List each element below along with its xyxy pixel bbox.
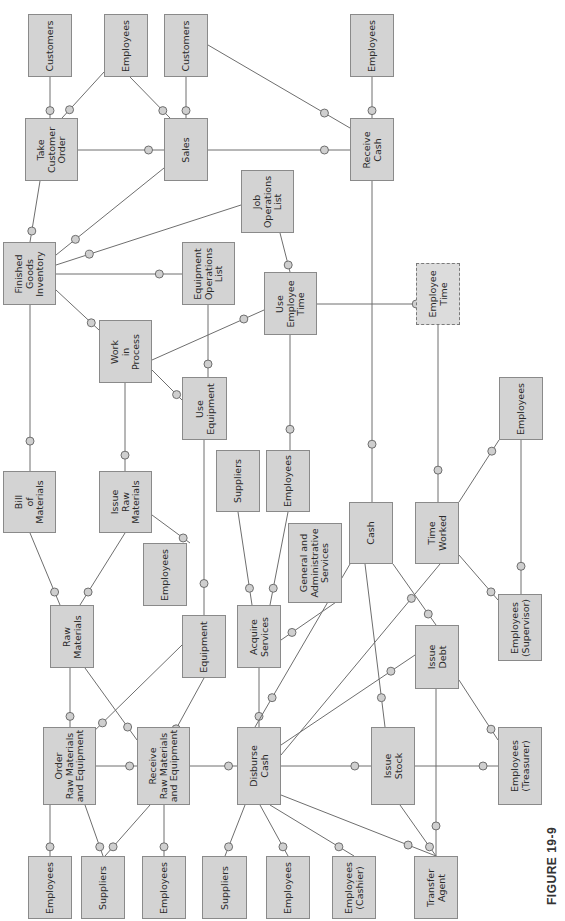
optional-cardinality-icon [26,437,34,445]
optional-cardinality-icon [240,315,248,323]
optional-cardinality-icon [286,425,294,433]
optional-cardinality-icon [426,843,434,851]
entity-label: Suppliers [219,865,230,909]
optional-cardinality-icon [434,466,442,474]
optional-cardinality-icon [479,762,487,770]
optional-cardinality-icon [46,843,54,851]
entity-equipment-operations-list: Equipment Operations List [182,242,235,305]
entity-finished-goods-inventory: Finished Goods Inventory [3,242,56,305]
entity-label: Cash [366,521,377,544]
entity-suppliers-b1: Suppliers [81,856,125,919]
optional-cardinality-icon [159,107,167,115]
entity-label: Order Raw Materials and Equipment [54,730,86,802]
entity-label: Use Employee Time [275,280,307,327]
optional-cardinality-icon [279,843,287,851]
entity-cash: Cash [349,502,393,564]
optional-cardinality-icon [487,588,495,596]
optional-cardinality-icon [368,107,376,115]
entity-employees-b1: Employees [28,856,72,919]
entity-customers-2: Customers [164,14,208,77]
optional-cardinality-icon [404,841,412,849]
entity-label: Issue Debt [427,645,448,670]
optional-cardinality-icon [377,694,385,702]
optional-cardinality-icon [225,762,233,770]
entity-raw-materials: Raw Materials [50,605,94,668]
optional-cardinality-icon [124,723,132,731]
entity-receive-rme: Receive Raw Materials and Equipment [137,727,190,805]
optional-cardinality-icon [28,227,36,235]
optional-cardinality-icon [487,725,495,733]
entity-customers-1: Customers [28,14,72,77]
entity-label: Raw Materials [62,615,83,659]
entity-employees-b2: Employees [142,856,186,919]
optional-cardinality-icon [320,146,328,154]
entity-label: Employees [283,862,294,914]
entity-label: Suppliers [98,865,109,909]
entity-label: Employee Time [428,270,449,317]
entity-label: Finished Goods Inventory [14,251,46,296]
optional-cardinality-icon [160,843,168,851]
optional-cardinality-icon [432,822,440,830]
optional-cardinality-icon [98,719,106,727]
entity-equipment: Equipment [182,615,226,678]
entity-label: Employees [121,20,132,72]
optional-cardinality-icon [204,360,212,368]
optional-cardinality-icon [109,843,117,851]
entity-label: General and Administrative Services [299,528,331,597]
optional-cardinality-icon [66,106,74,114]
entity-employees-supervisor: Employees (Supervisor) [498,594,542,661]
entity-employees-tco: Employees [104,14,148,77]
entity-label: Sales [181,137,192,162]
entity-label: Employees [45,862,56,914]
entity-suppliers-b2: Suppliers [202,856,247,919]
entity-take-customer-order: Take Customer Order [25,118,78,181]
optional-cardinality-icon [179,534,187,542]
optional-cardinality-icon [320,109,328,117]
entity-work-in-process: Work in Process [99,320,152,383]
optional-cardinality-icon [269,584,277,592]
entity-label: Time Worked [427,515,448,551]
entity-ga-services: General and Administrative Services [288,523,342,603]
entity-label: Issue Stock [383,753,404,779]
optional-cardinality-icon [407,594,415,602]
optional-cardinality-icon [46,107,54,115]
entity-employee-time: Employee Time [416,263,460,325]
optional-cardinality-icon [85,250,93,258]
entity-employees-tw: Employees [499,377,543,440]
optional-cardinality-icon [335,843,343,851]
entity-employees-treasurer: Employees (Treasurer) [498,727,542,805]
entity-suppliers-as: Suppliers [216,450,260,512]
entity-receive-cash: Receive Cash [350,118,394,181]
entity-employees-as: Employees [266,450,310,512]
optional-cardinality-icon [368,440,376,448]
optional-cardinality-icon [268,694,276,702]
entity-sales: Sales [164,118,208,181]
entity-issue-debt: Issue Debt [415,625,459,689]
entity-label: Receive Raw Materials and Equipment [148,730,180,802]
entity-use-employee-time: Use Employee Time [264,272,317,335]
entity-label: Acquire Services [249,616,270,656]
entity-label: Take Customer Order [36,126,68,172]
optional-cardinality-icon [155,270,163,278]
relationship-line [208,45,350,128]
er-diagram: CustomersEmployeesCustomersEmployeesTake… [0,0,565,921]
optional-cardinality-icon [84,588,92,596]
entity-label: Disburse Cash [249,745,270,787]
entity-label: Employees [283,455,294,507]
entity-label: Employees (Cashier) [344,862,365,914]
entity-issue-raw-materials: Issue Raw Materials [99,471,152,533]
optional-cardinality-icon [126,762,134,770]
optional-cardinality-icon [51,588,59,596]
entity-label: Transfer Agent [426,868,447,906]
entity-label: Job Operations List [252,175,284,227]
entity-label: Use Equipment [194,383,215,435]
entity-label: Issue Raw Materials [110,480,142,524]
optional-cardinality-icon [71,235,79,243]
optional-cardinality-icon [288,628,296,636]
optional-cardinality-icon [424,610,432,618]
entity-label: Work in Process [110,333,142,369]
entity-label: Customers [181,20,192,71]
optional-cardinality-icon [66,712,74,720]
entity-label: Employees [160,549,171,601]
entity-use-equipment: Use Equipment [182,377,227,440]
